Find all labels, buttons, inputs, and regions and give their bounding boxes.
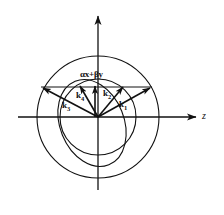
k1-label: k1 [119,100,127,111]
k2-label: k2 [103,89,111,100]
vector-diagram-svg [0,0,224,215]
k4-subscript: 4 [81,95,84,102]
k3-subscript: 3 [67,105,70,112]
z-axis-label: z [202,111,206,121]
k1-subscript: 1 [124,104,127,111]
k4-label: k4 [76,91,84,102]
figure-canvas: z αx+βy k1 k2 k3 k4 [0,0,224,215]
polarization-label: αx+βy [80,70,103,79]
k3-label: k3 [62,101,70,112]
k2-subscript: 2 [108,93,111,100]
index-ellipse [45,69,138,176]
